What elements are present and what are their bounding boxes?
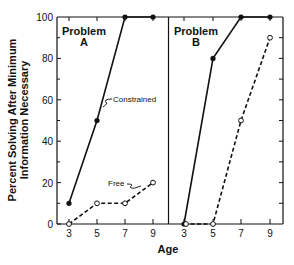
y-tick-40: 40 (42, 136, 54, 147)
x-axis-title: Age (158, 243, 179, 255)
plot-frame (57, 17, 283, 224)
y-tick-20: 20 (42, 178, 54, 189)
x-tick-labels: 3 5 7 9 3 5 7 9 (66, 228, 273, 239)
y-axis-title: Percent Solving After Minimum Informatio… (6, 38, 30, 201)
x-tick-b-3: 3 (181, 228, 187, 239)
x-tick-b-7: 7 (238, 228, 244, 239)
svg-text:Constrained: Constrained (113, 95, 156, 104)
y-tick-60: 60 (42, 95, 54, 106)
y-tick-labels: 0 20 40 60 80 100 (36, 12, 53, 230)
y-axis-title-line2: Information Necessary (18, 60, 30, 179)
x-tick-a-5: 5 (94, 228, 100, 239)
panel-a-title: Problem A (62, 25, 106, 48)
x-tick-a-3: 3 (66, 228, 72, 239)
x-tick-b-9: 9 (267, 228, 273, 239)
x-tick-b-5: 5 (210, 228, 216, 239)
y-tick-80: 80 (42, 53, 54, 64)
y-tick-0: 0 (47, 219, 53, 230)
svg-text:Free: Free (108, 179, 125, 188)
svg-text:B: B (192, 36, 200, 48)
panel-b-free-series (184, 35, 273, 226)
x-tick-a-9: 9 (150, 228, 156, 239)
annotation-free: Free (108, 179, 141, 188)
y-axis-title-line1: Percent Solving After Minimum (6, 38, 18, 201)
x-tick-a-7: 7 (122, 228, 128, 239)
panel-b-title: Problem B (174, 25, 218, 48)
svg-text:A: A (80, 36, 88, 48)
chart: 0 20 40 60 80 100 3 5 7 9 3 5 7 9 Age Pe… (0, 0, 294, 265)
annotation-constrained: Constrained (103, 95, 156, 107)
y-tick-100: 100 (36, 12, 53, 23)
